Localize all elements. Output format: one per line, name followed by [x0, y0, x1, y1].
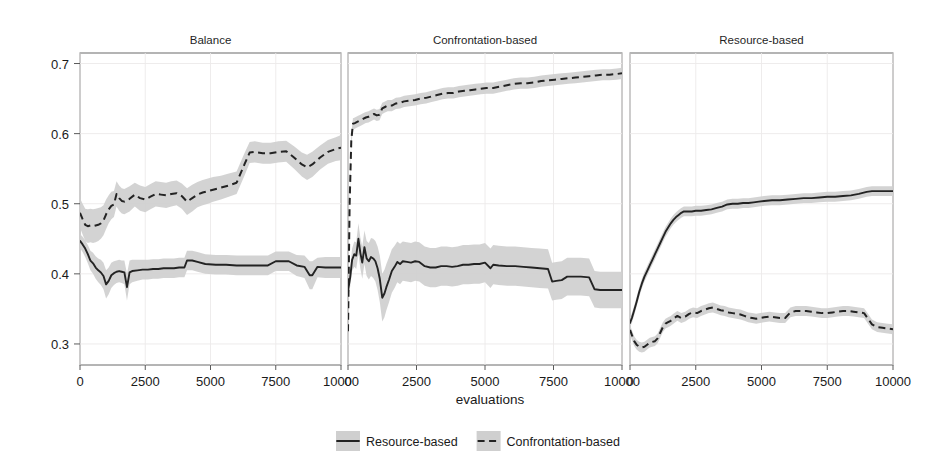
x-tick-label: 10000	[323, 374, 359, 389]
legend-label: Confrontation-based	[507, 435, 620, 449]
facet-line-chart: BalanceConfrontation-basedResource-based…	[0, 0, 946, 472]
x-tick-label: 5000	[471, 374, 500, 389]
x-tick-label: 7500	[261, 374, 290, 389]
x-tick-label: 7500	[539, 374, 568, 389]
x-tick-label: 7500	[813, 374, 842, 389]
x-tick-label: 0	[626, 374, 633, 389]
x-tick-label: 2500	[402, 374, 431, 389]
facet-panel-3: Resource-based	[630, 34, 893, 365]
x-tick-label: 2500	[131, 374, 160, 389]
x-tick-label: 0	[344, 374, 351, 389]
facet-panel-2: Confrontation-based	[348, 34, 622, 365]
facet-title: Confrontation-based	[433, 34, 537, 46]
facet-panel-1: Balance	[80, 34, 341, 365]
x-axis-title: evaluations	[456, 392, 525, 407]
facet-title: Balance	[190, 34, 232, 46]
x-tick-label: 10000	[604, 374, 640, 389]
x-tick-label: 5000	[747, 374, 776, 389]
legend-label: Resource-based	[366, 435, 458, 449]
y-tick-label: 0.5	[51, 197, 69, 212]
y-tick-label: 0.7	[51, 57, 69, 72]
x-tick-label: 10000	[875, 374, 911, 389]
x-tick-label: 2500	[681, 374, 710, 389]
facet-title: Resource-based	[719, 34, 803, 46]
y-tick-label: 0.3	[51, 337, 69, 352]
y-tick-label: 0.6	[51, 127, 69, 142]
x-tick-label: 0	[76, 374, 83, 389]
y-tick-label: 0.4	[51, 267, 69, 282]
x-tick-label: 5000	[196, 374, 225, 389]
panels-group: BalanceConfrontation-basedResource-based	[80, 34, 893, 365]
